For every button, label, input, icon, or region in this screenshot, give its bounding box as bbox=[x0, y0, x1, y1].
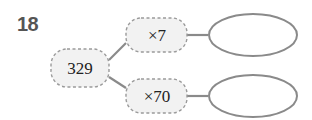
operation-box-1: ×7 bbox=[126, 18, 187, 52]
result-answer-blank-1[interactable] bbox=[209, 14, 297, 56]
operation-box-2: ×70 bbox=[126, 79, 187, 113]
multiplication-diagram: 329 ×7 ×70 bbox=[0, 0, 312, 120]
operation-label-2: ×70 bbox=[144, 87, 171, 106]
result-answer-blank-2[interactable] bbox=[209, 75, 297, 117]
start-value-box: 329 bbox=[51, 49, 109, 87]
connector-start-to-op1 bbox=[109, 43, 126, 60]
connector-start-to-op2 bbox=[109, 77, 126, 88]
operation-label-1: ×7 bbox=[148, 26, 167, 45]
start-value: 329 bbox=[67, 59, 93, 78]
